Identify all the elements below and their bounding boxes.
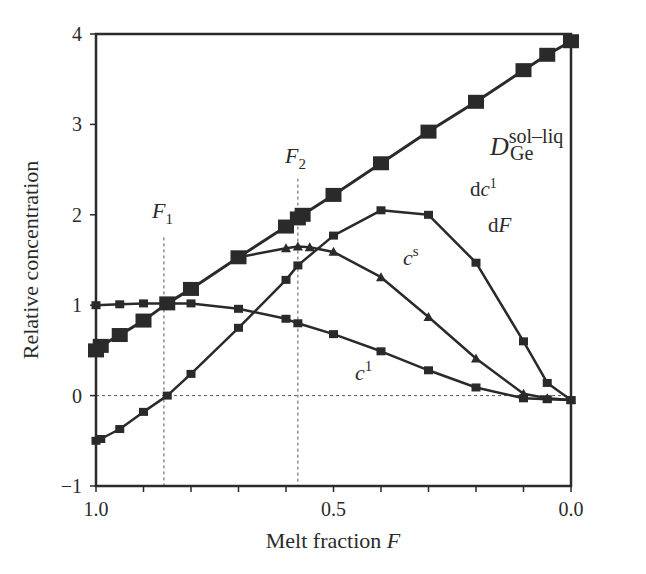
label-cs: cs [403, 243, 419, 270]
label-d-ge-sub: Ge [510, 142, 533, 164]
y-tick-label: −1 [61, 475, 82, 497]
marker-small-square [329, 232, 338, 240]
marker-small-square [282, 276, 291, 284]
marker-small-square [329, 330, 338, 338]
y-tick-label: 4 [72, 23, 82, 45]
marker-small-square [472, 259, 481, 267]
marker-large-square [326, 188, 342, 202]
series-line-2 [96, 210, 571, 440]
y-tick-label: 1 [72, 294, 82, 316]
marker-small-square [293, 261, 302, 269]
marker-small-square [472, 383, 481, 391]
y-axis-ticks: 43210−1 [61, 23, 96, 497]
marker-small-square [115, 300, 124, 308]
marker-large-square [373, 156, 389, 170]
x-tick-label: 0.0 [559, 498, 584, 520]
label-f2: F2 [284, 143, 306, 172]
marker-small-square [234, 305, 243, 313]
x-tick-label: 1.0 [84, 498, 109, 520]
marker-small-square [163, 299, 172, 307]
y-tick-label: 0 [72, 385, 82, 407]
marker-large-square [516, 63, 532, 77]
marker-small-square [234, 324, 243, 332]
marker-large-square [468, 95, 484, 109]
marker-small-square [424, 366, 433, 374]
series-lines [96, 41, 571, 441]
marker-small-square [96, 435, 105, 443]
y-tick-label: 2 [72, 204, 82, 226]
label-f1: F1 [151, 198, 173, 227]
x-axis-ticks: 1.00.50.0 [84, 486, 584, 520]
marker-large-square [112, 328, 128, 342]
marker-small-square [377, 206, 386, 214]
marker-small-square [187, 299, 196, 307]
label-dcl: dc1 [470, 176, 497, 201]
marker-small-square [293, 319, 302, 327]
marker-small-square [187, 370, 196, 378]
marker-small-square [115, 425, 124, 433]
marker-small-square [543, 379, 552, 387]
marker-large-square [539, 48, 555, 62]
marker-large-square [421, 125, 437, 139]
marker-small-square [163, 392, 172, 400]
label-df: dF [488, 213, 512, 237]
marker-small-square [424, 211, 433, 219]
marker-small-square [139, 408, 148, 416]
melt-fraction-chart: 1.00.50.0 43210−1 Melt fraction F Relati… [0, 0, 646, 574]
x-tick-label: 0.5 [321, 498, 346, 520]
marker-small-square [139, 299, 148, 307]
series-markers [88, 34, 579, 445]
marker-small-square [377, 347, 386, 355]
marker-large-square [295, 208, 311, 222]
marker-large-square [136, 314, 152, 328]
marker-small-square [282, 315, 291, 323]
marker-large-square [183, 282, 199, 296]
label-cl: c1 [355, 358, 372, 385]
plot-frame [96, 34, 571, 486]
x-axis-title: Melt fraction F [266, 528, 401, 553]
series-line-1 [96, 303, 571, 400]
y-tick-label: 3 [72, 113, 82, 135]
marker-small-square [519, 337, 528, 345]
y-axis-title: Relative concentration [18, 161, 43, 360]
